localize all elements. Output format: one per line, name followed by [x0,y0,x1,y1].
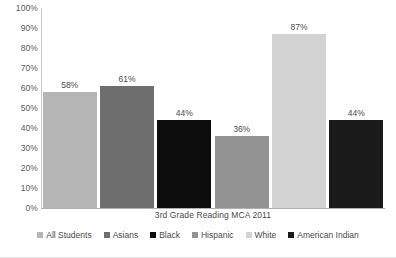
bar-value-label: 61% [118,74,135,84]
bar-group: 61% [100,8,154,208]
bar[interactable] [272,34,326,208]
y-axis-tick-label: 30% [0,144,38,153]
legend-label: All Students [46,230,91,240]
legend-label: Black [159,230,180,240]
legend-item[interactable]: American Indian [288,230,358,240]
bar-chart: 100%90%80%70%60%50%40%30%20%10%0% 58%61%… [0,0,396,258]
y-axis-tick-label: 100% [0,4,38,13]
bars-container: 58%61%44%36%87%44% [41,8,385,208]
legend-item[interactable]: Black [150,230,180,240]
y-axis-tick-label: 90% [0,24,38,33]
bar-group: 44% [329,8,383,208]
y-axis-tick-label: 0% [0,204,38,213]
bar-value-label: 44% [348,108,365,118]
chart-title: 3rd Grade Reading MCA 2011 [41,210,385,221]
y-axis-tick-label: 50% [0,104,38,113]
bar[interactable] [157,120,211,208]
bar[interactable] [100,86,154,208]
y-axis-tick-label: 70% [0,64,38,73]
bar-group: 87% [272,8,326,208]
bar-group: 44% [157,8,211,208]
legend-label: Asians [113,230,139,240]
bar-value-label: 44% [176,108,193,118]
legend-swatch-icon [288,232,294,238]
bar[interactable] [215,136,269,208]
bar-group: 36% [215,8,269,208]
bar[interactable] [43,92,97,208]
legend-swatch-icon [192,232,198,238]
bar-value-label: 36% [233,124,250,134]
legend-label: American Indian [297,230,358,240]
y-axis: 100%90%80%70%60%50%40%30%20%10%0% [0,0,38,218]
y-axis-tick-label: 60% [0,84,38,93]
legend-item[interactable]: Hispanic [192,230,234,240]
x-axis-line [41,208,385,209]
bar-value-label: 87% [290,22,307,32]
legend-swatch-icon [37,232,43,238]
bar-value-label: 58% [61,80,78,90]
legend-item[interactable]: Asians [104,230,139,240]
bar-group: 58% [43,8,97,208]
legend-swatch-icon [104,232,110,238]
plot-area: 100%90%80%70%60%50%40%30%20%10%0% 58%61%… [0,0,396,218]
y-axis-tick-label: 10% [0,184,38,193]
legend: All StudentsAsiansBlackHispanicWhiteAmer… [0,230,396,240]
y-axis-tick-label: 20% [0,164,38,173]
y-axis-tick-label: 80% [0,44,38,53]
legend-label: White [255,230,277,240]
legend-swatch-icon [246,232,252,238]
legend-item[interactable]: White [246,230,277,240]
legend-label: Hispanic [201,230,234,240]
bar[interactable] [329,120,383,208]
y-axis-tick-label: 40% [0,124,38,133]
legend-swatch-icon [150,232,156,238]
legend-item[interactable]: All Students [37,230,91,240]
